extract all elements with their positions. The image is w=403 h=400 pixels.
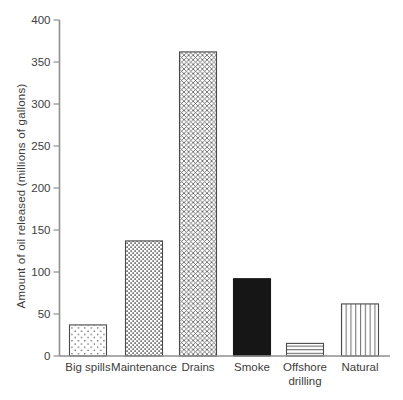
- y-tick-label-50: 50: [38, 308, 51, 320]
- x-label-smoke: Smoke: [234, 361, 270, 373]
- y-tick-label-150: 150: [31, 224, 50, 236]
- y-tick-label-200: 200: [31, 182, 50, 194]
- y-tick-label-250: 250: [31, 140, 50, 152]
- x-axis-labels: Big spillsMaintenanceDrainsSmokeOffshore…: [65, 361, 378, 387]
- oil-released-bar-chart: 050100150200250300350400 Big spillsMaint…: [0, 0, 403, 400]
- y-tick-label-0: 0: [44, 350, 50, 362]
- y-tick-label-400: 400: [31, 14, 50, 26]
- bar-big-spills: [70, 325, 107, 356]
- figure-canvas: 050100150200250300350400 Big spillsMaint…: [0, 0, 403, 400]
- y-axis-ticks: 050100150200250300350400: [31, 14, 59, 362]
- x-label-offshore-drilling-line2: drilling: [288, 375, 321, 387]
- x-label-offshore-drilling: Offshore: [283, 361, 327, 373]
- bar-maintenance: [126, 241, 163, 356]
- y-tick-label-100: 100: [31, 266, 50, 278]
- x-label-maintenance: Maintenance: [111, 361, 177, 373]
- y-tick-label-300: 300: [31, 98, 50, 110]
- y-tick-label-350: 350: [31, 56, 50, 68]
- bar-drains: [180, 52, 217, 356]
- x-label-natural: Natural: [341, 361, 378, 373]
- bar-offshore-drilling: [287, 343, 324, 356]
- x-label-drains: Drains: [181, 361, 214, 373]
- x-label-big-spills: Big spills: [65, 361, 111, 373]
- y-axis-title: Amount of oil released (millions of gall…: [15, 84, 27, 309]
- axes-layer: [60, 20, 391, 356]
- bar-natural: [342, 304, 379, 356]
- bar-smoke: [234, 279, 271, 356]
- bars-layer: [70, 52, 379, 356]
